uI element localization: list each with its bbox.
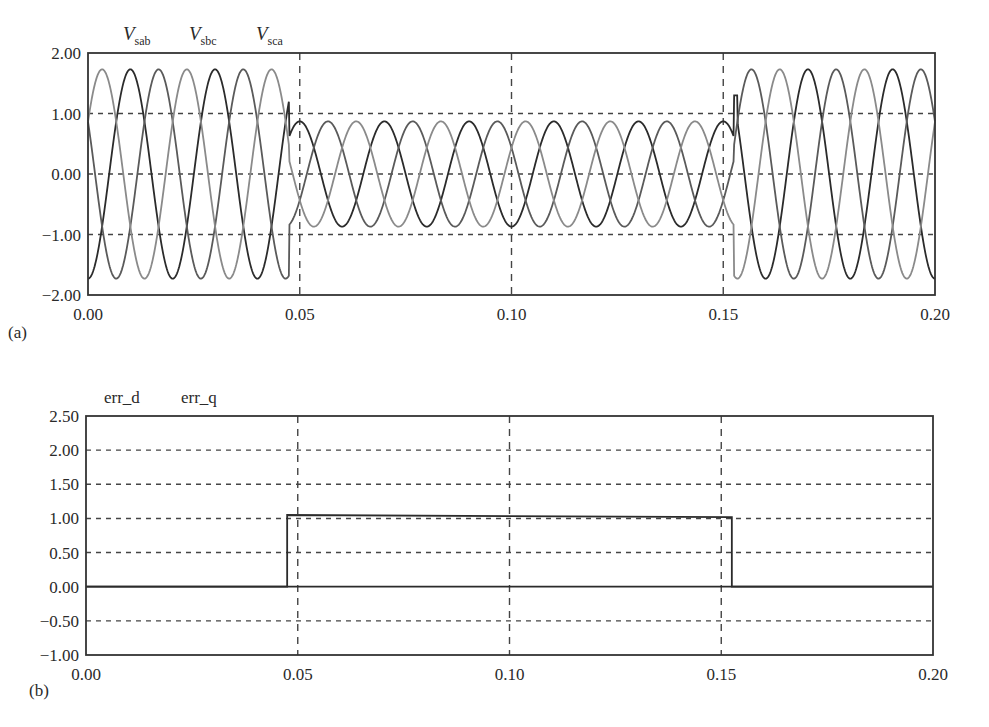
figure: Vsab Vsbc Vsca 2.001.000.00−1.00−2.00 0.… (0, 0, 989, 727)
y-tick-label: 1.50 (49, 475, 79, 494)
legend-err-q: err_q (181, 388, 217, 407)
y-axis-b: 2.502.001.501.000.500.00−0.50−1.00 (40, 407, 79, 665)
legend-a: Vsab Vsbc Vsca (123, 23, 284, 48)
legend-b: err_d err_q (104, 388, 217, 407)
y-tick-label: 0.00 (49, 578, 79, 597)
y-tick-label: 0.50 (49, 544, 79, 563)
legend-vsbc: Vsbc (189, 23, 217, 48)
voltage-chart: Vsab Vsbc Vsca 2.001.000.00−1.00−2.00 0.… (8, 23, 950, 342)
grid-a (88, 53, 935, 295)
x-tick-label: 0.05 (285, 305, 315, 324)
x-tick-label: 0.15 (706, 665, 736, 684)
y-tick-label: 0.00 (51, 165, 81, 184)
y-axis-a: 2.001.000.00−1.00−2.00 (42, 44, 81, 305)
y-tick-label: −0.50 (40, 612, 79, 631)
legend-vsca: Vsca (256, 23, 284, 48)
x-tick-label: 0.15 (708, 305, 738, 324)
x-tick-label: 0.20 (918, 665, 948, 684)
legend-vsab: Vsab (123, 23, 151, 48)
y-tick-label: 1.00 (51, 105, 81, 124)
x-tick-label: 0.05 (283, 665, 313, 684)
x-tick-label: 0.10 (497, 305, 527, 324)
y-tick-label: 1.00 (49, 509, 79, 528)
y-tick-label: 2.50 (49, 407, 79, 426)
legend-err-d: err_d (104, 388, 140, 407)
grid-b (86, 416, 933, 655)
y-tick-label: 2.00 (49, 441, 79, 460)
x-tick-label: 0.20 (920, 305, 950, 324)
y-tick-label: −1.00 (42, 226, 81, 245)
x-axis-b: 0.000.050.100.150.20 (71, 665, 948, 684)
y-tick-label: 2.00 (51, 44, 81, 63)
x-tick-label: 0.00 (73, 305, 103, 324)
x-axis-a: 0.000.050.100.150.20 (73, 305, 950, 324)
panel-label-b: (b) (29, 681, 49, 700)
y-tick-label: −2.00 (42, 286, 81, 305)
y-tick-label: −1.00 (40, 646, 79, 665)
x-tick-label: 0.10 (495, 665, 525, 684)
x-tick-label: 0.00 (71, 665, 101, 684)
panel-label-a: (a) (8, 323, 27, 342)
error-chart: err_d err_q 2.502.001.501.000.500.00−0.5… (29, 388, 948, 700)
